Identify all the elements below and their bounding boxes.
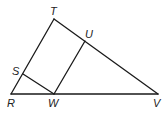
segment-SW — [23, 74, 54, 94]
label-S: S — [12, 65, 20, 77]
label-W: W — [48, 97, 60, 109]
label-V: V — [153, 97, 162, 109]
segment-WU — [54, 41, 85, 94]
label-U: U — [85, 28, 93, 40]
label-R: R — [7, 97, 15, 109]
label-T: T — [50, 5, 58, 17]
segment-RT — [11, 19, 54, 94]
segment-TV — [54, 19, 158, 94]
geometry-diagram: T U S R W V — [0, 0, 168, 116]
